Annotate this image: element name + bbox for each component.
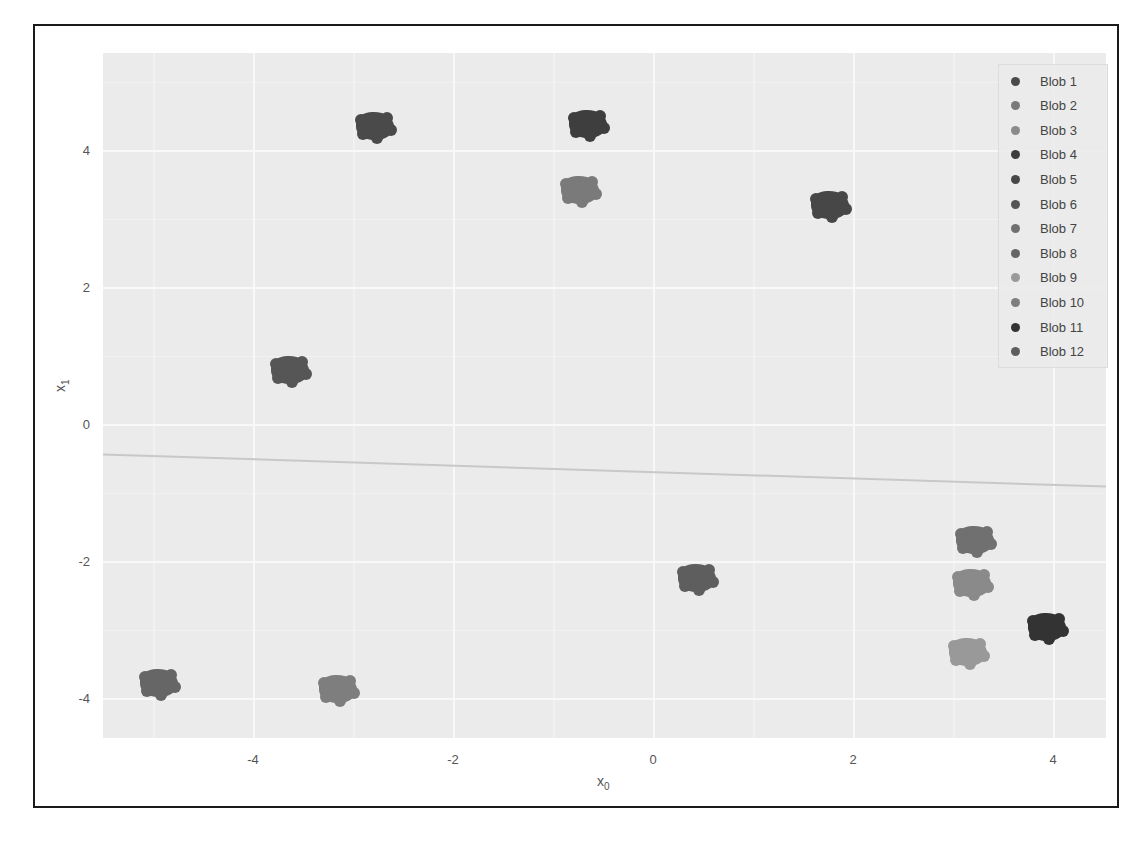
data-point	[1027, 615, 1039, 627]
legend-marker-icon	[1011, 224, 1020, 233]
data-point	[985, 538, 997, 550]
plot-area	[103, 53, 1106, 738]
x-tick-label: 4	[1049, 752, 1056, 767]
data-point	[1043, 633, 1055, 645]
legend-item: Blob 11	[999, 317, 1083, 337]
data-point	[974, 638, 986, 650]
legend-item: Blob 6	[999, 194, 1077, 214]
y-tick-label: 4	[70, 143, 90, 158]
data-point	[165, 669, 177, 681]
data-point	[139, 671, 151, 683]
legend-marker-icon	[1011, 77, 1020, 86]
decision-line	[103, 53, 1106, 738]
data-point	[954, 585, 966, 597]
legend-item: Blob 4	[999, 145, 1077, 165]
data-point	[679, 580, 691, 592]
data-point	[584, 130, 596, 142]
legend-label: Blob 9	[1040, 270, 1077, 285]
data-point	[957, 542, 969, 554]
data-point	[1029, 629, 1041, 641]
legend-item: Blob 1	[999, 71, 1077, 91]
data-point	[300, 368, 312, 380]
data-point	[968, 589, 980, 601]
legend-item: Blob 10	[999, 292, 1084, 312]
legend-label: Blob 4	[1040, 147, 1077, 162]
x-tick-label: 2	[849, 752, 856, 767]
data-point	[950, 654, 962, 666]
legend-item: Blob 7	[999, 219, 1077, 239]
data-point	[948, 640, 960, 652]
data-point	[955, 528, 967, 540]
legend: Blob 1Blob 2Blob 3Blob 4Blob 5Blob 6Blob…	[998, 64, 1108, 368]
data-point	[385, 124, 397, 136]
legend-marker-icon	[1011, 175, 1020, 184]
data-point	[836, 191, 848, 203]
legend-label: Blob 1	[1040, 74, 1077, 89]
data-point	[286, 376, 298, 388]
legend-label: Blob 10	[1040, 295, 1084, 310]
data-point	[590, 188, 602, 200]
data-point	[560, 178, 572, 190]
data-point	[141, 685, 153, 697]
data-point	[981, 526, 993, 538]
data-point	[594, 110, 606, 122]
legend-marker-icon	[1011, 273, 1020, 282]
data-point	[371, 132, 383, 144]
data-point	[707, 576, 719, 588]
data-point	[576, 196, 588, 208]
data-point	[598, 122, 610, 134]
legend-label: Blob 11	[1040, 320, 1083, 335]
data-point	[978, 569, 990, 581]
legend-marker-icon	[1011, 150, 1020, 159]
data-point	[952, 571, 964, 583]
data-point	[381, 112, 393, 124]
y-axis-label: x1	[52, 379, 71, 392]
legend-item: Blob 2	[999, 96, 1077, 116]
data-point	[570, 126, 582, 138]
data-point	[320, 691, 332, 703]
data-point	[810, 193, 822, 205]
data-point	[1057, 625, 1069, 637]
legend-marker-icon	[1011, 323, 1020, 332]
data-point	[355, 114, 367, 126]
data-point	[677, 566, 689, 578]
legend-label: Blob 8	[1040, 246, 1077, 261]
data-point	[693, 584, 705, 596]
legend-label: Blob 3	[1040, 123, 1077, 138]
legend-label: Blob 6	[1040, 197, 1077, 212]
y-tick-label: -4	[70, 691, 90, 706]
legend-label: Blob 5	[1040, 172, 1077, 187]
data-point	[964, 658, 976, 670]
data-point	[982, 581, 994, 593]
data-point	[155, 689, 167, 701]
legend-item: Blob 9	[999, 268, 1077, 288]
legend-marker-icon	[1011, 200, 1020, 209]
legend-marker-icon	[1011, 249, 1020, 258]
data-point	[568, 112, 580, 124]
data-point	[169, 681, 181, 693]
data-point	[357, 128, 369, 140]
data-point	[978, 650, 990, 662]
data-point	[272, 372, 284, 384]
legend-item: Blob 3	[999, 120, 1077, 140]
data-point	[812, 207, 824, 219]
x-axis-label: x0	[597, 773, 610, 792]
data-point	[586, 176, 598, 188]
data-point	[270, 358, 282, 370]
data-point	[344, 675, 356, 687]
x-tick-label: 0	[649, 752, 656, 767]
legend-marker-icon	[1011, 347, 1020, 356]
x-tick-label: -2	[447, 752, 459, 767]
legend-item: Blob 12	[999, 342, 1084, 362]
legend-marker-icon	[1011, 126, 1020, 135]
x-tick-label: -4	[247, 752, 259, 767]
legend-item: Blob 5	[999, 169, 1077, 189]
legend-label: Blob 7	[1040, 221, 1077, 236]
data-point	[562, 192, 574, 204]
data-point	[840, 203, 852, 215]
legend-label: Blob 12	[1040, 344, 1084, 359]
data-point	[1053, 613, 1065, 625]
y-tick-label: 0	[70, 417, 90, 432]
data-point	[334, 695, 346, 707]
data-point	[971, 546, 983, 558]
